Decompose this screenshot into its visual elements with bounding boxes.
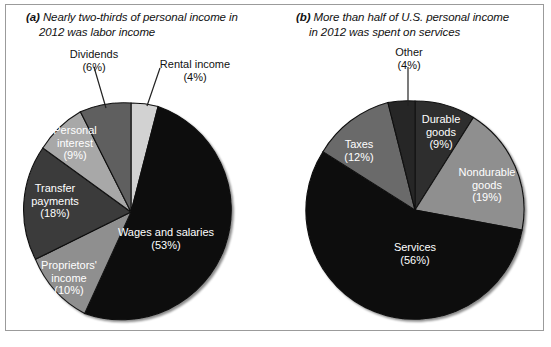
label-dividends: Dividends (6%) [48, 48, 140, 73]
label-wages-and-salaries-pct: (53%) [106, 239, 226, 252]
label-taxes: Taxes (12%) [327, 138, 391, 163]
label-taxes-text: Taxes [327, 138, 391, 151]
label-rental-income-pct: (4%) [140, 71, 250, 84]
label-personal-interest-text1: Personal [32, 124, 118, 137]
label-proprietors-income-text2: income [24, 272, 114, 285]
label-transfer-payments-text2: payments [10, 195, 100, 208]
label-proprietors-income-text1: Proprietors' [24, 259, 114, 272]
label-durable-goods-text1: Durable [405, 113, 477, 126]
label-wages-and-salaries: Wages and salaries (53%) [106, 226, 226, 251]
label-transfer-payments-pct: (18%) [10, 207, 100, 220]
label-taxes-pct: (12%) [327, 151, 391, 164]
label-nondurable-goods-text1: Nondurable [443, 166, 531, 179]
label-durable-goods: Durable goods (9%) [405, 113, 477, 151]
label-personal-interest: Personal interest (9%) [32, 124, 118, 162]
label-rental-income-text: Rental income [140, 58, 250, 71]
label-proprietors-income-pct: (10%) [24, 284, 114, 297]
label-services-text: Services [374, 241, 456, 254]
label-other: Other (4%) [374, 46, 444, 71]
label-personal-interest-pct: (9%) [32, 149, 118, 162]
label-nondurable-goods: Nondurable goods (19%) [443, 166, 531, 204]
figure-container: (a) Nearly two-thirds of personal income… [0, 0, 551, 347]
label-transfer-payments-text1: Transfer [10, 182, 100, 195]
label-dividends-text: Dividends [48, 48, 140, 61]
panel-a: (a) Nearly two-thirds of personal income… [0, 0, 278, 327]
label-personal-interest-text2: interest [32, 137, 118, 150]
label-wages-and-salaries-text: Wages and salaries [106, 226, 226, 239]
panel-b: (b) More than half of U.S. personal inco… [278, 0, 539, 327]
label-services-pct: (56%) [374, 254, 456, 267]
label-proprietors-income: Proprietors' income (10%) [24, 259, 114, 297]
label-dividends-pct: (6%) [48, 61, 140, 74]
label-durable-goods-text2: goods [405, 126, 477, 139]
label-services: Services (56%) [374, 241, 456, 266]
label-nondurable-goods-pct: (19%) [443, 191, 531, 204]
label-durable-goods-pct: (9%) [405, 138, 477, 151]
label-other-pct: (4%) [374, 59, 444, 72]
label-other-text: Other [374, 46, 444, 59]
label-nondurable-goods-text2: goods [443, 179, 531, 192]
label-transfer-payments: Transfer payments (18%) [10, 182, 100, 220]
label-rental-income: Rental income (4%) [140, 58, 250, 83]
